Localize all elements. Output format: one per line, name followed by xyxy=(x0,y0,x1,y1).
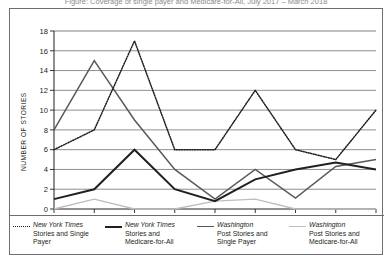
plot-area: NUMBER OF STORIES 024681012141618Jul.Aug… xyxy=(10,9,384,214)
legend-label-nyt-medicare-for-all: New York Times Stories and Medicare-for-… xyxy=(125,221,175,247)
y-tick-label: 16 xyxy=(40,47,48,56)
legend-item-wapo-medicare-for-all: Washington Post Stories and Medicare-for… xyxy=(289,221,381,247)
y-tick-label: 14 xyxy=(40,66,48,75)
legend-line-2: Stories and xyxy=(125,230,160,237)
legend-label-wapo-single-payer: Washington Post Stories and Single Payer xyxy=(217,221,268,247)
y-tick-label: 2 xyxy=(44,185,48,194)
legend-line-3: Single Payer xyxy=(217,238,256,245)
figure-container: Figure: Coverage of single payer and Med… xyxy=(0,0,392,263)
y-tick-label: 12 xyxy=(40,86,48,95)
chart-frame: NUMBER OF STORIES 024681012141618Jul.Aug… xyxy=(9,8,383,255)
legend-swatch-dotted-icon xyxy=(13,223,30,231)
legend-swatch-solid-lightgray-icon xyxy=(289,223,306,231)
y-tick-label: 4 xyxy=(44,165,48,174)
chart-legend: New York Times Stories and Single Payer … xyxy=(10,215,384,256)
legend-swatch-solid-black-icon xyxy=(105,223,122,231)
y-tick-label: 0 xyxy=(44,205,48,214)
series-line xyxy=(54,41,376,160)
legend-line-1: New York Times xyxy=(125,221,175,228)
legend-line-2: Post Stories and xyxy=(309,230,360,237)
legend-item-wapo-single-payer: Washington Post Stories and Single Payer xyxy=(197,221,289,247)
legend-line-1: Washington xyxy=(217,221,253,228)
legend-item-nyt-single-payer: New York Times Stories and Single Payer xyxy=(13,221,105,247)
legend-line-3: Medicare-for-All xyxy=(309,238,358,245)
y-tick-label: 18 xyxy=(40,27,48,36)
legend-item-nyt-medicare-for-all: New York Times Stories and Medicare-for-… xyxy=(105,221,197,247)
legend-label-nyt-single-payer: New York Times Stories and Single Payer xyxy=(33,221,89,247)
legend-label-wapo-medicare-for-all: Washington Post Stories and Medicare-for… xyxy=(309,221,360,247)
legend-line-1: New York Times xyxy=(33,221,83,228)
y-tick-label: 8 xyxy=(44,126,48,135)
legend-line-2: Post Stories and xyxy=(217,230,268,237)
legend-line-1: Washington xyxy=(309,221,345,228)
y-tick-label: 6 xyxy=(44,145,48,154)
legend-line-3: Payer xyxy=(33,238,51,245)
legend-line-2: Stories and Single xyxy=(33,230,89,237)
line-chart-svg: 024681012141618Jul.Aug.Sep.Oct.Nov.Dec.J… xyxy=(10,9,384,214)
figure-title-text: Figure: Coverage of single payer and Med… xyxy=(0,0,392,6)
legend-swatch-solid-gray-icon xyxy=(197,223,214,231)
legend-line-3: Medicare-for-All xyxy=(125,238,174,245)
figure-title-clipped: Figure: Coverage of single payer and Med… xyxy=(0,0,392,7)
y-tick-label: 10 xyxy=(40,106,48,115)
